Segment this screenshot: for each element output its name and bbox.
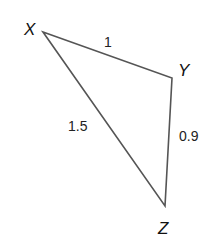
triangle-xyz bbox=[43, 32, 172, 206]
vertex-label-y: Y bbox=[178, 61, 191, 80]
side-label-yz: 0.9 bbox=[179, 128, 199, 144]
triangle-diagram: X Y Z 1 1.5 0.9 bbox=[0, 0, 215, 248]
side-label-xz: 1.5 bbox=[68, 118, 88, 134]
side-label-xy: 1 bbox=[104, 34, 112, 50]
vertex-label-z: Z bbox=[157, 219, 169, 238]
vertex-label-x: X bbox=[23, 20, 36, 39]
